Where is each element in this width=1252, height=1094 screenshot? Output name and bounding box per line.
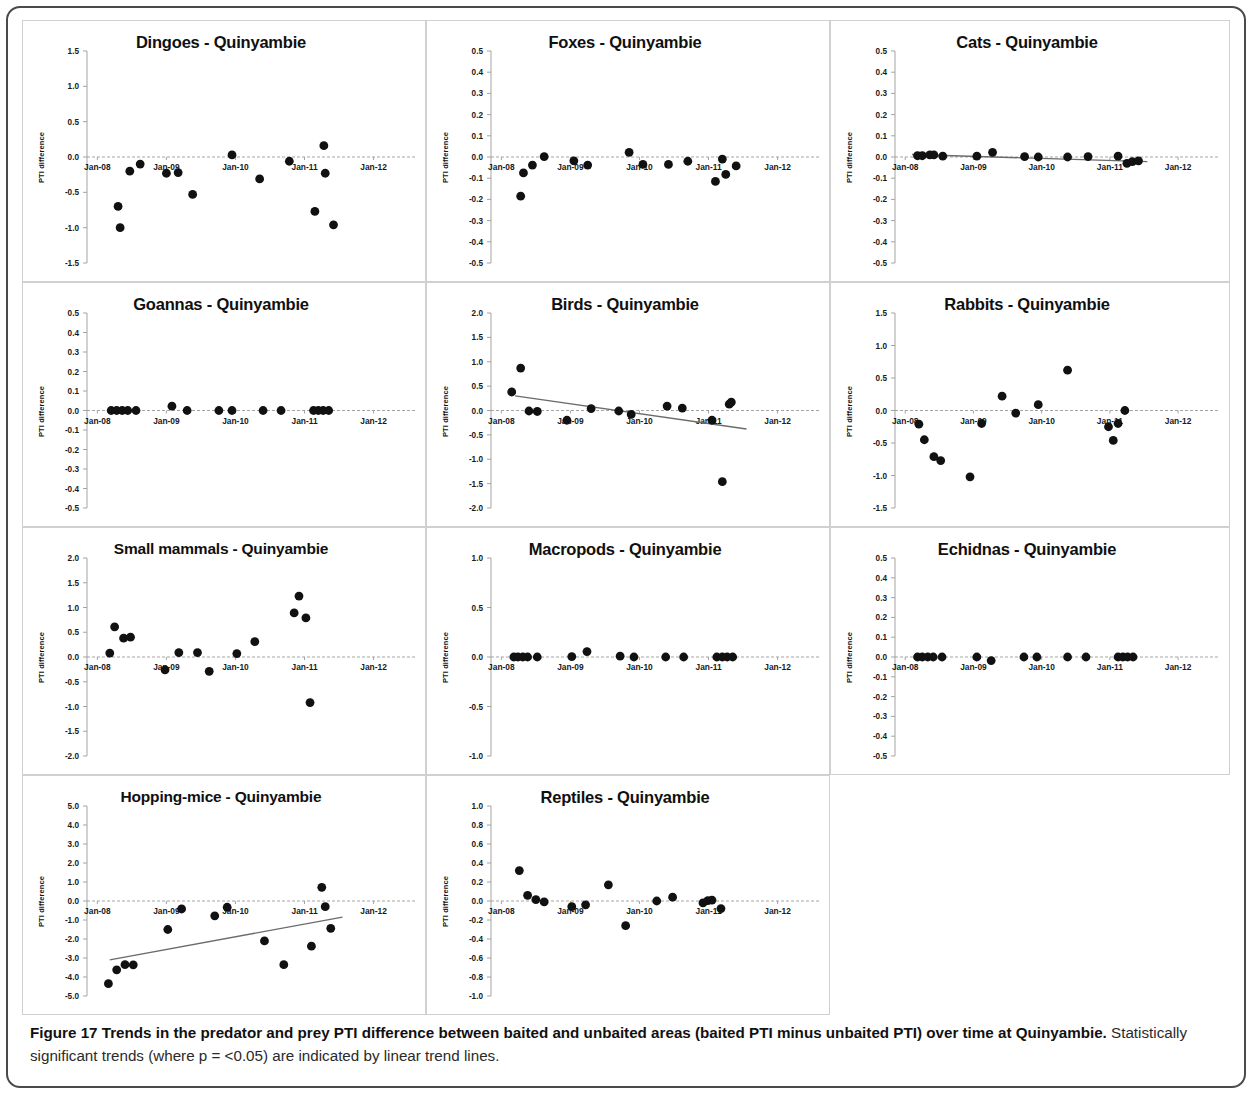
svg-text:0.1: 0.1	[68, 387, 80, 396]
svg-text:Jan-12: Jan-12	[360, 906, 387, 916]
svg-text:0.0: 0.0	[876, 153, 888, 162]
svg-text:-0.5: -0.5	[469, 703, 484, 712]
svg-text:0.4: 0.4	[876, 68, 888, 77]
svg-text:0.3: 0.3	[472, 89, 484, 98]
panel-reptiles: Reptiles - Quinyambie 1.00.80.60.40.20.0…	[426, 775, 830, 1015]
svg-text:Jan-09: Jan-09	[557, 662, 584, 672]
svg-text:Jan-12: Jan-12	[764, 416, 791, 426]
svg-text:2.0: 2.0	[68, 859, 80, 868]
svg-text:0.0: 0.0	[68, 897, 80, 906]
svg-text:-0.4: -0.4	[469, 935, 484, 944]
svg-text:-0.5: -0.5	[65, 678, 80, 687]
svg-text:Jan-12: Jan-12	[360, 162, 387, 172]
svg-text:1.0: 1.0	[68, 878, 80, 887]
svg-text:-0.3: -0.3	[65, 465, 80, 474]
panel-foxes: Foxes - Quinyambie 0.50.40.30.20.10.0-0.…	[426, 20, 830, 282]
svg-text:0.0: 0.0	[68, 407, 80, 416]
panel-hopping-mice: Hopping-mice - Quinyambie 5.04.03.02.01.…	[22, 775, 426, 1015]
svg-text:0.0: 0.0	[472, 153, 484, 162]
svg-text:0.0: 0.0	[68, 653, 80, 662]
svg-text:1.0: 1.0	[472, 358, 484, 367]
svg-text:0.5: 0.5	[876, 374, 888, 383]
svg-text:Jan-11: Jan-11	[1097, 662, 1123, 672]
svg-text:0.0: 0.0	[472, 897, 484, 906]
svg-text:-1.0: -1.0	[469, 992, 484, 1001]
svg-text:3.0: 3.0	[68, 840, 80, 849]
svg-text:Jan-10: Jan-10	[222, 162, 249, 172]
y-axis-label: PTI difference	[37, 876, 46, 927]
svg-text:0.2: 0.2	[876, 613, 888, 622]
svg-text:0.0: 0.0	[472, 407, 484, 416]
y-axis-label: PTI difference	[845, 632, 854, 683]
svg-text:1.0: 1.0	[68, 82, 80, 91]
svg-text:-0.8: -0.8	[469, 973, 484, 982]
svg-text:Jan-10: Jan-10	[626, 906, 653, 916]
y-axis-label: PTI difference	[441, 632, 450, 683]
svg-text:0.0: 0.0	[68, 153, 80, 162]
svg-text:-1.5: -1.5	[469, 480, 484, 489]
svg-text:-0.2: -0.2	[873, 693, 888, 702]
svg-text:-5.0: -5.0	[65, 992, 80, 1001]
svg-text:0.2: 0.2	[68, 368, 80, 377]
svg-text:Jan-08: Jan-08	[488, 162, 515, 172]
svg-text:0.4: 0.4	[68, 329, 80, 338]
svg-text:-0.2: -0.2	[65, 446, 80, 455]
figure-container: Dingoes - Quinyambie 1.51.00.50.0-0.5-1.…	[0, 0, 1252, 1094]
plot-area: 1.51.00.50.0-0.5-1.0-1.5Jan-08Jan-09Jan-…	[23, 21, 425, 281]
y-axis-label: PTI difference	[845, 386, 854, 437]
caption-bold-text: Figure 17 Trends in the predator and pre…	[30, 1024, 1107, 1041]
svg-text:-0.4: -0.4	[65, 485, 80, 494]
svg-text:Jan-12: Jan-12	[764, 162, 791, 172]
svg-text:-1.0: -1.0	[65, 224, 80, 233]
svg-text:0.4: 0.4	[876, 574, 888, 583]
svg-text:1.0: 1.0	[472, 802, 484, 811]
svg-text:0.5: 0.5	[68, 628, 80, 637]
panel-echidnas: Echidnas - Quinyambie 0.50.40.30.20.10.0…	[830, 527, 1230, 775]
y-axis-label: PTI difference	[441, 132, 450, 183]
svg-text:Jan-12: Jan-12	[1165, 662, 1192, 672]
svg-text:-1.0: -1.0	[65, 703, 80, 712]
svg-text:Jan-12: Jan-12	[1165, 162, 1192, 172]
svg-text:0.5: 0.5	[472, 382, 484, 391]
svg-text:0.1: 0.1	[472, 132, 484, 141]
svg-text:0.2: 0.2	[876, 111, 888, 120]
svg-text:Jan-11: Jan-11	[291, 162, 317, 172]
plot-area: 5.04.03.02.01.00.0-1.0-2.0-3.0-4.0-5.0Ja…	[23, 776, 425, 1014]
svg-text:-1.5: -1.5	[65, 259, 80, 268]
svg-text:-0.2: -0.2	[873, 195, 888, 204]
plot-area: 2.01.51.00.50.0-0.5-1.0-1.5-2.0Jan-08Jan…	[427, 283, 829, 526]
svg-text:Jan-08: Jan-08	[84, 162, 111, 172]
svg-text:1.5: 1.5	[68, 47, 80, 56]
svg-text:Jan-08: Jan-08	[488, 662, 515, 672]
svg-text:Jan-12: Jan-12	[764, 662, 791, 672]
svg-text:0.5: 0.5	[876, 47, 888, 56]
svg-text:-1.5: -1.5	[873, 504, 888, 513]
svg-text:-0.6: -0.6	[469, 954, 484, 963]
svg-text:1.0: 1.0	[472, 554, 484, 563]
svg-text:Jan-11: Jan-11	[1097, 162, 1123, 172]
svg-text:0.3: 0.3	[876, 89, 888, 98]
svg-text:Jan-10: Jan-10	[1028, 662, 1055, 672]
plot-area: 0.50.40.30.20.10.0-0.1-0.2-0.3-0.4-0.5Ja…	[427, 21, 829, 281]
svg-text:-0.1: -0.1	[65, 426, 80, 435]
svg-text:Jan-11: Jan-11	[695, 162, 721, 172]
svg-text:-0.5: -0.5	[469, 259, 484, 268]
svg-text:2.0: 2.0	[68, 554, 80, 563]
svg-text:-1.0: -1.0	[65, 916, 80, 925]
y-axis-label: PTI difference	[37, 386, 46, 437]
svg-text:0.5: 0.5	[876, 554, 888, 563]
panel-grid: Dingoes - Quinyambie 1.51.00.50.0-0.5-1.…	[22, 20, 1230, 1015]
svg-text:-2.0: -2.0	[65, 752, 80, 761]
svg-text:-0.2: -0.2	[469, 195, 484, 204]
svg-text:Jan-09: Jan-09	[960, 662, 987, 672]
svg-text:Jan-11: Jan-11	[291, 416, 317, 426]
svg-text:Jan-08: Jan-08	[84, 416, 111, 426]
svg-text:-0.1: -0.1	[469, 174, 484, 183]
svg-text:-0.5: -0.5	[873, 439, 888, 448]
figure-caption: Figure 17 Trends in the predator and pre…	[30, 1022, 1220, 1067]
svg-text:Jan-08: Jan-08	[488, 906, 515, 916]
svg-text:0.5: 0.5	[68, 309, 80, 318]
svg-text:Jan-08: Jan-08	[892, 162, 919, 172]
svg-text:2.0: 2.0	[472, 309, 484, 318]
panel-macropods: Macropods - Quinyambie 1.00.50.0-0.5-1.0…	[426, 527, 830, 775]
